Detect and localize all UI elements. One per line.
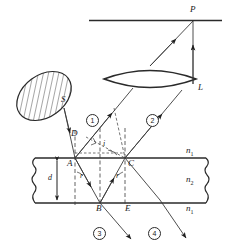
lens-shape xyxy=(104,71,196,88)
right-angle-mark-d xyxy=(91,138,96,145)
label-source: S xyxy=(61,95,66,104)
film-slab xyxy=(32,158,209,203)
ray-label-1: 1 xyxy=(86,114,99,127)
label-lens: L xyxy=(198,83,203,92)
diagram-canvas xyxy=(0,0,228,249)
ray-b-to-c xyxy=(100,158,125,203)
label-point-e: E xyxy=(125,204,131,213)
ray-label-2: 2 xyxy=(146,114,159,127)
ray-label-4: 4 xyxy=(148,227,161,240)
label-point-c: C xyxy=(128,159,134,168)
label-point-b: B xyxy=(96,204,102,213)
normal-lines xyxy=(75,128,125,205)
ray-label-3: 3 xyxy=(93,227,106,240)
ray-a-to-b xyxy=(75,158,100,203)
ray-1-to-p xyxy=(150,21,193,66)
label-point-d: D xyxy=(71,129,78,138)
label-angle-refraction-left: r xyxy=(80,172,83,180)
label-angle-incidence: i xyxy=(103,140,105,148)
label-angle-refraction-right: r xyxy=(116,172,119,180)
angle-arc-i xyxy=(108,150,117,155)
label-screen-point: P xyxy=(190,5,196,14)
label-point-a: A xyxy=(67,159,73,168)
optics-ray-diagram: P L S D i A C B E d r r n1 n2 n1 1 2 3 4 xyxy=(0,0,228,249)
label-thickness: d xyxy=(48,174,52,182)
label-index-above: n1 xyxy=(186,146,194,157)
source-shape xyxy=(7,61,80,130)
ray-4-path xyxy=(125,158,186,238)
label-index-below: n1 xyxy=(186,204,194,215)
ray-source-to-c xyxy=(114,108,125,158)
label-index-film: n2 xyxy=(186,175,194,186)
